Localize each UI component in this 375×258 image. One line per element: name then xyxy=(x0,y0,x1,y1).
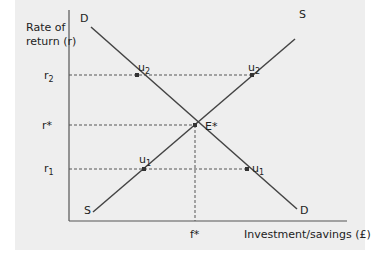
tick-r2: r2 xyxy=(44,69,54,84)
tick-rstar: r* xyxy=(42,119,53,132)
tick-r1: r1 xyxy=(44,162,54,177)
label-u2-supply: u2 xyxy=(248,61,260,76)
demand-label-end: D xyxy=(300,204,308,217)
label-u2-demand: u2 xyxy=(138,61,150,76)
y-axis-label-line2: return (r) xyxy=(26,35,76,48)
point-equilibrium xyxy=(193,123,197,127)
label-equilibrium: E* xyxy=(205,120,218,133)
y-axis-label-line1: Rate of xyxy=(26,21,66,34)
point-u1-demand xyxy=(245,167,249,171)
tick-fstar: f* xyxy=(190,228,200,241)
label-u1-demand: u1 xyxy=(252,162,264,177)
label-u1-supply: u1 xyxy=(139,153,151,168)
supply-label-start: S xyxy=(84,204,91,217)
supply-label-end: S xyxy=(299,8,306,21)
supply-demand-diagram: Rate of return (r) Investment/savings (£… xyxy=(0,0,375,258)
x-axis-label: Investment/savings (£) xyxy=(244,228,371,241)
demand-label-start: D xyxy=(80,12,88,25)
demand-curve xyxy=(91,27,297,209)
